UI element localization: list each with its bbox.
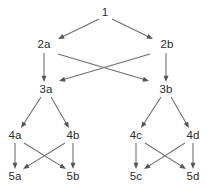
edge-line (58, 54, 144, 80)
arrow-head-icon (58, 34, 65, 39)
arrow-head-icon (21, 121, 26, 128)
edge-line (171, 97, 186, 124)
edge-line (24, 97, 41, 124)
arrow-head-icon (71, 163, 76, 169)
arrow-head-icon (164, 76, 169, 82)
edge-n4a-to-n5a (13, 143, 18, 169)
edge-line (24, 143, 62, 166)
graph-edges-canvas (0, 0, 207, 193)
edge-line (64, 54, 150, 80)
arrow-head-icon (64, 121, 69, 128)
graph-diagram: 12a2b3a3b4a4b4c4d5a5b5c5d (0, 0, 207, 193)
edge-n3b-to-n4c (141, 97, 161, 128)
arrow-head-icon (23, 164, 30, 169)
arrow-head-icon (134, 163, 139, 169)
node-label-5b: 5b (67, 171, 80, 183)
edge-n4b-to-n5b (71, 143, 76, 169)
edge-n1-to-n2b (112, 19, 153, 39)
arrow-head-icon (142, 77, 149, 82)
arrow-head-icon (184, 121, 189, 128)
edge-line (62, 19, 99, 37)
edge-n4b-to-n5a (23, 143, 65, 169)
node-label-5a: 5a (9, 171, 22, 183)
edge-n4c-to-n5d (145, 143, 186, 169)
edge-n4d-to-n5c (144, 143, 185, 169)
arrow-head-icon (59, 77, 66, 82)
edge-n3b-to-n4d (171, 97, 189, 128)
arrow-head-icon (42, 76, 47, 82)
node-label-3a: 3a (40, 84, 53, 96)
node-label-4d: 4d (187, 130, 200, 142)
edge-line (148, 143, 185, 166)
node-label-2a: 2a (38, 39, 51, 51)
edge-n4c-to-n5c (134, 143, 139, 169)
edge-n4d-to-n5d (191, 143, 196, 169)
node-label-5c: 5c (130, 171, 142, 183)
edge-n3a-to-n4b (51, 97, 69, 128)
arrow-head-icon (191, 163, 196, 169)
edge-n1-to-n2a (58, 19, 99, 39)
edge-n2a-to-n3a (42, 53, 47, 82)
arrow-head-icon (59, 164, 66, 169)
edge-n4a-to-n5b (24, 143, 66, 169)
edge-n2b-to-n3b (164, 53, 169, 82)
edge-line (51, 97, 66, 124)
node-label-4c: 4c (130, 130, 142, 142)
edge-line (27, 143, 65, 166)
node-label-3b: 3b (160, 84, 173, 96)
arrow-head-icon (144, 164, 151, 169)
edge-line (145, 143, 182, 166)
node-label-4a: 4a (9, 130, 22, 142)
node-label-1: 1 (102, 7, 109, 19)
arrow-head-icon (179, 164, 186, 169)
edge-line (144, 97, 161, 124)
edge-n3a-to-n4a (21, 97, 41, 128)
node-label-4b: 4b (67, 130, 80, 142)
node-label-5d: 5d (187, 171, 200, 183)
arrow-head-icon (13, 163, 18, 169)
arrow-head-icon (141, 121, 146, 128)
edge-line (112, 19, 149, 37)
node-label-2b: 2b (161, 39, 174, 51)
arrow-head-icon (146, 34, 153, 39)
